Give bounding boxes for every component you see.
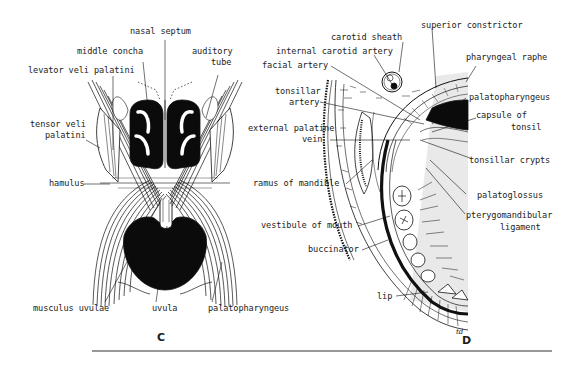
label-external-palatine-line2: vein <box>302 134 322 145</box>
label-palatopharyngeus-c: palatopharyngeus <box>208 303 289 314</box>
label-pterygomandibular-line2: ligament <box>500 222 541 233</box>
label-palatoglossus: palatoglossus <box>477 190 543 201</box>
label-ramus-of-mandible: ramus of mandible <box>253 178 339 189</box>
label-tonsillar-artery-line1: tonsillar <box>275 86 321 97</box>
label-buccinator: buccinator <box>308 244 359 255</box>
label-facial-artery: facial artery <box>262 60 328 71</box>
label-external-palatine-line1: external palatine <box>248 123 334 134</box>
label-tensor-veli-line1: tensor veli <box>30 119 86 130</box>
label-hamulus: hamulus <box>49 178 85 189</box>
label-superior-constrictor: superior constrictor <box>421 20 522 31</box>
figure-d-drawing: td <box>320 28 476 336</box>
label-musculus-uvulae: musculus uvulae <box>33 303 109 314</box>
label-pharyngeal-raphe: pharyngeal raphe <box>466 52 547 63</box>
label-capsule-of-tonsil-line2: tonsil <box>511 122 541 133</box>
label-tonsillar-artery-line2: artery <box>289 97 319 108</box>
label-carotid-sheath: carotid sheath <box>331 32 402 43</box>
label-pterygomandibular-line1: pterygomandibular <box>466 210 552 221</box>
label-auditory-tube-line1: auditory <box>192 46 233 57</box>
label-vestibule-of-mouth: vestibule of mouth <box>261 220 352 231</box>
label-capsule-of-tonsil-line1: capsule of <box>476 110 527 121</box>
label-uvula: uvula <box>152 303 177 314</box>
label-middle-concha: middle concha <box>77 46 143 57</box>
figure-letter-c: C <box>157 331 165 344</box>
label-levator-veli-palatini: levator veli palatini <box>28 65 135 76</box>
label-tonsillar-crypts: tonsillar crypts <box>469 155 550 166</box>
label-nasal-septum: nasal septum <box>130 26 191 37</box>
figure-c-drawing <box>84 40 242 307</box>
anatomy-figure-page: td nasal s <box>0 0 580 368</box>
label-lip: lip <box>377 291 392 302</box>
label-internal-carotid-artery: internal carotid artery <box>276 46 393 57</box>
label-tensor-veli-line2: palatini <box>45 130 86 141</box>
label-auditory-tube-line2: tube <box>211 57 231 68</box>
figure-letter-d: D <box>462 334 471 347</box>
label-palatopharyngeus-d: palatopharyngeus <box>469 92 550 103</box>
